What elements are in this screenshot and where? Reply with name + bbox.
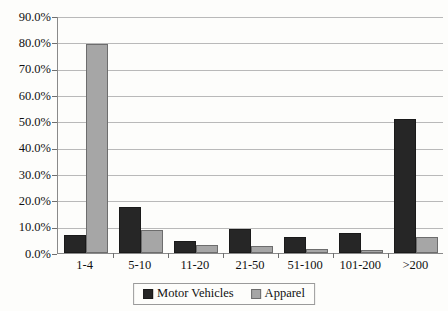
x-axis-category-label: 11-20 xyxy=(167,258,222,273)
bar-group xyxy=(223,17,278,253)
y-axis-tick-label: 90.0% xyxy=(0,11,51,24)
legend-entry: Apparel xyxy=(251,286,305,301)
bar xyxy=(174,241,196,253)
chart-legend: Motor VehiclesApparel xyxy=(133,283,315,305)
bar xyxy=(86,44,108,253)
bar-group xyxy=(58,17,113,253)
y-axis-tick-label: 30.0% xyxy=(0,169,51,182)
bar-groups xyxy=(58,17,443,253)
bar xyxy=(394,119,416,253)
y-axis-tick-label: 20.0% xyxy=(0,195,51,208)
bar-chart: 0.0%10.0%20.0%30.0%40.0%50.0%60.0%70.0%8… xyxy=(0,0,448,311)
y-axis-tick-label: 50.0% xyxy=(0,116,51,129)
legend-label: Motor Vehicles xyxy=(157,286,234,301)
bar xyxy=(251,246,273,253)
x-axis-category-label: 5-10 xyxy=(112,258,167,273)
bar-group xyxy=(113,17,168,253)
x-axis-category-label: 51-100 xyxy=(278,258,333,273)
legend-swatch-icon xyxy=(143,289,153,299)
y-axis-tick-label: 80.0% xyxy=(0,37,51,50)
y-axis-tick-label: 10.0% xyxy=(0,221,51,234)
y-axis-tick-mark xyxy=(52,254,57,255)
bar xyxy=(339,233,361,253)
bar xyxy=(416,237,438,253)
x-axis-category-label: 1-4 xyxy=(57,258,112,273)
bar-group xyxy=(388,17,443,253)
legend-label: Apparel xyxy=(265,286,305,301)
bar-group xyxy=(333,17,388,253)
plot-area xyxy=(57,17,443,254)
y-axis-tick-label: 60.0% xyxy=(0,90,51,103)
x-axis-labels: 1-45-1011-2021-5051-100101-200>200 xyxy=(57,258,443,273)
y-axis-tick-label: 0.0% xyxy=(0,248,51,261)
y-axis-tick-label: 70.0% xyxy=(0,63,51,76)
bar xyxy=(361,250,383,253)
x-axis-category-label: 101-200 xyxy=(333,258,388,273)
y-axis-tick-label: 40.0% xyxy=(0,142,51,155)
bar xyxy=(141,230,163,253)
bar xyxy=(306,249,328,253)
legend-entry: Motor Vehicles xyxy=(143,286,234,301)
bar xyxy=(229,229,251,253)
legend-swatch-icon xyxy=(251,289,261,299)
x-axis-category-label: >200 xyxy=(388,258,443,273)
bar-group xyxy=(168,17,223,253)
bar xyxy=(196,245,218,253)
bar-group xyxy=(278,17,333,253)
bar xyxy=(119,207,141,253)
bar xyxy=(64,235,86,253)
x-axis-category-label: 21-50 xyxy=(222,258,277,273)
bar xyxy=(284,237,306,253)
